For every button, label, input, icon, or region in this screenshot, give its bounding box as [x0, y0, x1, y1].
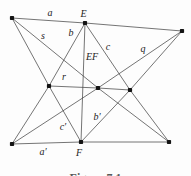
label-a-prime: a′	[39, 146, 47, 157]
vertex-dot-mid-center	[96, 86, 100, 90]
label-r: r	[62, 71, 66, 82]
vertex-dot-mid-right	[128, 88, 132, 92]
label-F: F	[75, 147, 83, 158]
label-c: c	[106, 41, 111, 52]
line-a-top	[12, 18, 182, 31]
figure-caption: Figure 7.1	[0, 171, 191, 176]
label-EF: EF	[85, 51, 99, 62]
vertices-group	[10, 16, 184, 146]
line-EF	[81, 23, 85, 142]
vertex-dot-mid-left	[47, 84, 51, 88]
line-r	[49, 86, 130, 90]
label-q: q	[141, 43, 146, 54]
label-c-prime: c′	[60, 121, 67, 132]
geometry-diagram: aEsbEFcqrb′c′a′F	[0, 0, 191, 176]
line-a-prime-bottom	[12, 142, 169, 144]
edges-group	[12, 18, 182, 144]
vertex-dot-top-right	[180, 29, 184, 33]
labels-group: aEsbEFcqrb′c′a′F	[39, 7, 145, 159]
label-s: s	[41, 30, 45, 41]
vertex-dot-F	[79, 140, 83, 144]
label-a: a	[48, 7, 53, 18]
figure-page: aEsbEFcqrb′c′a′F Figure 7.1	[0, 0, 191, 176]
label-b-prime: b′	[93, 111, 101, 122]
label-b: b	[69, 27, 74, 38]
vertex-dot-bottom-left	[10, 142, 14, 146]
label-E: E	[79, 8, 86, 19]
vertex-dot-top-left	[10, 16, 14, 20]
line-b	[12, 23, 85, 144]
line-s	[12, 18, 169, 142]
vertex-dot-E	[83, 21, 87, 25]
vertex-dot-bottom-right	[167, 140, 171, 144]
